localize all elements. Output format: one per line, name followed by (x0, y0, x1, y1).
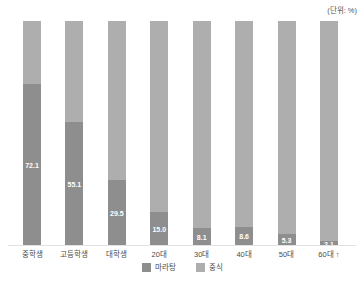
category-label: 대학생 (108, 250, 126, 260)
bar: 72.1 (23, 21, 41, 246)
legend-label: 중식 (209, 264, 223, 272)
bar-segment-series2 (193, 21, 211, 228)
bar-value-label: 29.5 (102, 209, 132, 216)
bar: 2.1 (320, 21, 338, 246)
unit-label: (단위: %) (327, 4, 357, 15)
bar-segment-series1: 8.1 (193, 228, 211, 246)
legend-item: 마라탕 (142, 263, 176, 272)
bar-segment-series1: 8.6 (235, 227, 253, 246)
bar: 55.1 (65, 21, 83, 246)
bar-segment-series1: 55.1 (65, 122, 83, 246)
bar-segment-series2 (150, 21, 168, 212)
legend: 마라탕중식 (0, 263, 364, 272)
legend-swatch-icon (142, 263, 151, 272)
category-label: 20대 (150, 250, 168, 260)
plot-area: 72.155.129.515.08.18.65.32.1 (23, 21, 338, 246)
x-axis-line (8, 245, 356, 246)
category-label: 60대 ↑ (320, 250, 338, 260)
category-label: 50대 (278, 250, 296, 260)
bar: 15.0 (150, 21, 168, 246)
legend-label: 마라탕 (155, 264, 176, 272)
bar-value-label: 8.6 (229, 233, 259, 240)
stacked-bar-chart: (단위: %) 72.155.129.515.08.18.65.32.1 중학생… (0, 0, 364, 283)
bar-segment-series1: 15.0 (150, 212, 168, 246)
legend-item: 중식 (196, 263, 223, 272)
bar: 29.5 (108, 21, 126, 246)
bar: 5.3 (278, 21, 296, 246)
bar-value-label: 55.1 (59, 181, 89, 188)
bars-container: 72.155.129.515.08.18.65.32.1 (23, 21, 338, 246)
bar-value-label: 15.0 (144, 226, 174, 233)
bar: 8.6 (235, 21, 253, 246)
category-label: 중학생 (23, 250, 41, 260)
bar-segment-series2 (278, 21, 296, 234)
bar-segment-series2 (23, 21, 41, 84)
bar-segment-series1: 29.5 (108, 180, 126, 246)
bar-segment-series1: 72.1 (23, 84, 41, 246)
bar-value-label: 8.1 (187, 233, 217, 240)
category-label: 40대 (235, 250, 253, 260)
bar-segment-series2 (65, 21, 83, 122)
bar-value-label: 72.1 (17, 161, 47, 168)
bar-segment-series2 (235, 21, 253, 227)
category-axis: 중학생고등학생대학생20대30대40대50대60대 ↑ (23, 250, 338, 260)
legend-swatch-icon (196, 263, 205, 272)
bar-value-label: 5.3 (272, 237, 302, 244)
category-label: 고등학생 (65, 250, 83, 260)
bar: 8.1 (193, 21, 211, 246)
bar-segment-series2 (108, 21, 126, 180)
bar-segment-series2 (320, 21, 338, 241)
category-label: 30대 (193, 250, 211, 260)
